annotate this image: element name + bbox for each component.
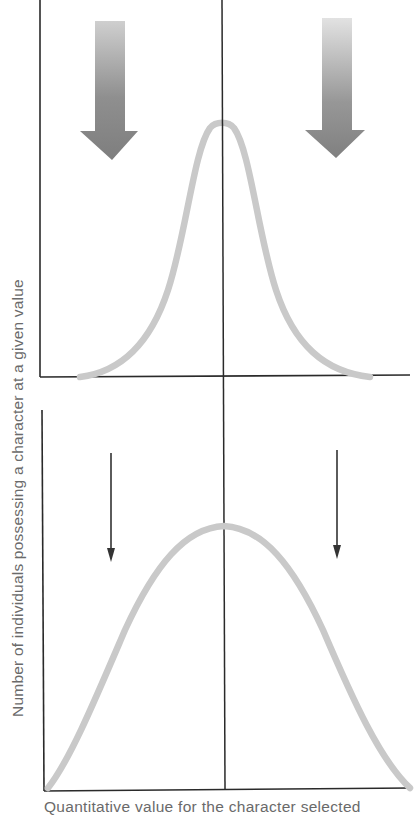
y-axis-label: Number of individuals possessing a chara…: [9, 279, 27, 717]
bottom-panel: [42, 410, 411, 791]
mean-value-line: [222, 0, 225, 790]
weak-selection-arrow-left-icon: [107, 453, 115, 562]
weak-selection-arrow-right-icon: [333, 450, 341, 559]
x-axis-label: Quantitative value for the character sel…: [44, 798, 361, 816]
top-distribution-curve: [80, 123, 370, 377]
bottom-y-axis: [42, 410, 44, 791]
top-panel: [40, 0, 410, 377]
bottom-distribution-curve: [48, 526, 410, 788]
strong-selection-arrow-left-icon: [80, 21, 138, 160]
bottom-x-axis: [44, 788, 411, 791]
strong-selection-arrow-right-icon: [305, 18, 365, 158]
